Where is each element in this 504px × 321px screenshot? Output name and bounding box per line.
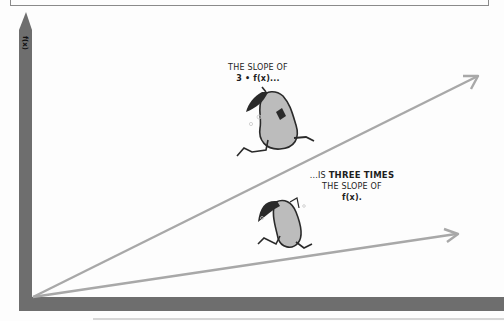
caption-bottom-prefix: ...IS — [310, 171, 326, 180]
caption-bottom-line3: f(x). — [300, 192, 404, 203]
line-fx-arrow — [33, 229, 458, 297]
caption-bottom-line2: THE SLOPE OF — [300, 181, 404, 192]
pear-running-fast-icon — [237, 87, 314, 156]
bottom-rule — [93, 318, 504, 320]
caption-bottom-emphasis: THREE TIMES — [329, 170, 395, 180]
caption-bottom: ...IS THREE TIMES THE SLOPE OF f(x). — [300, 170, 404, 203]
pear-running-slow-icon — [258, 198, 312, 248]
x-axis — [19, 297, 504, 311]
slope-diagram — [0, 0, 504, 321]
caption-top-line2: 3 • f(x)... — [218, 73, 298, 84]
y-axis-label: f(x) — [19, 32, 31, 54]
caption-top: THE SLOPE OF 3 • f(x)... — [218, 62, 298, 84]
caption-top-line1: THE SLOPE OF — [218, 62, 298, 73]
y-axis — [19, 12, 32, 298]
caption-bottom-line1: ...IS THREE TIMES — [300, 170, 404, 181]
